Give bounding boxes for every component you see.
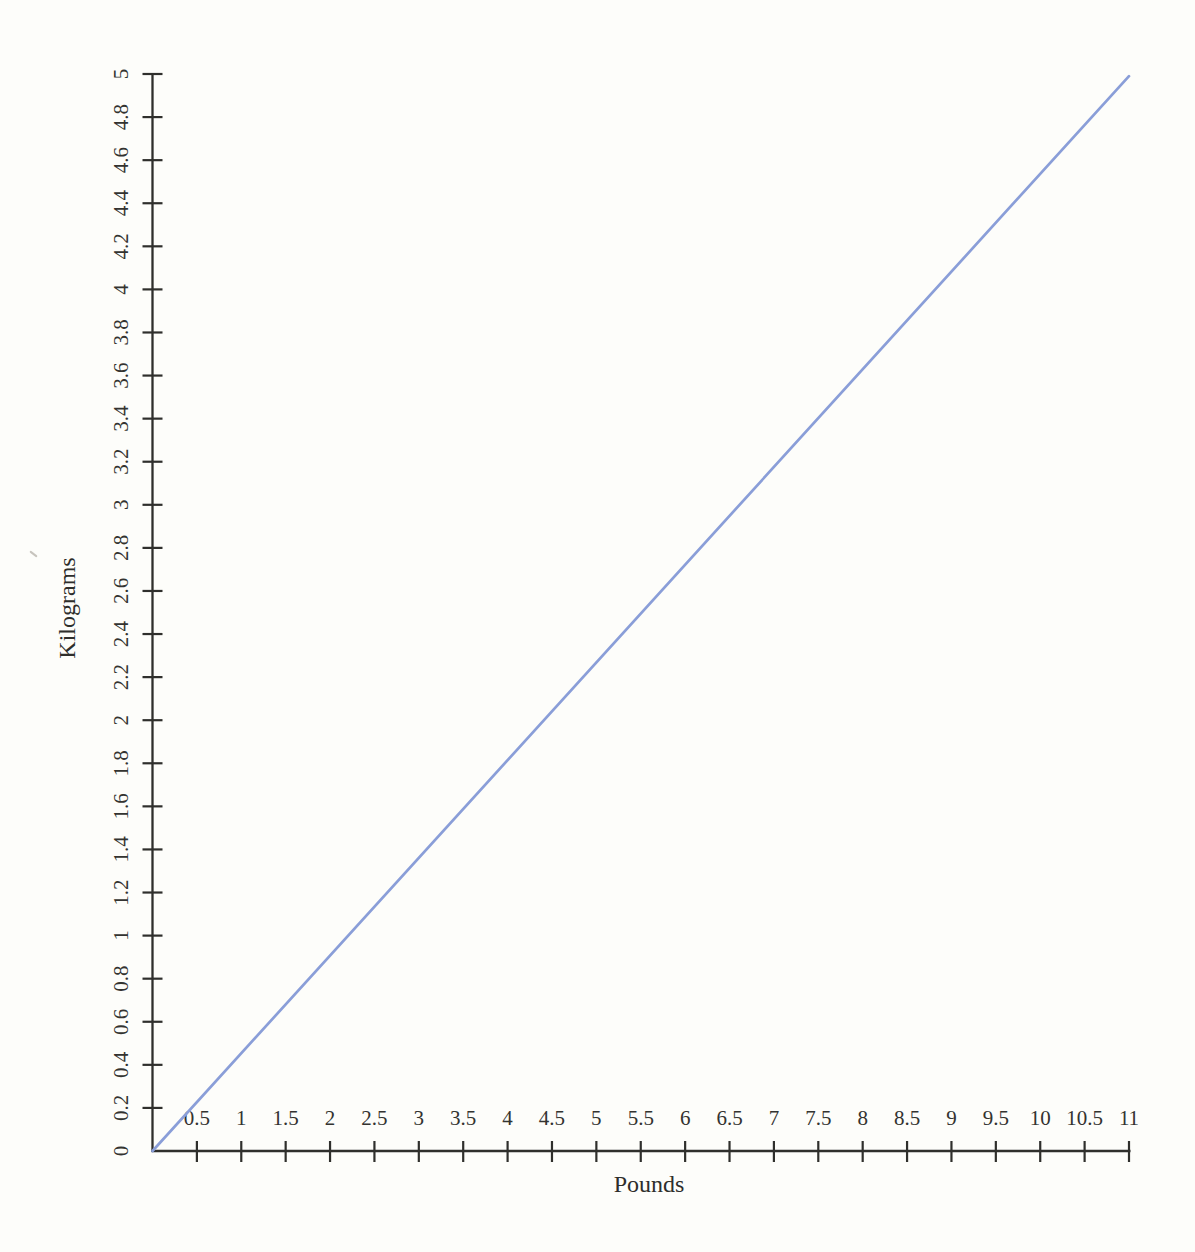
- x-tick-label: 10.5: [1066, 1106, 1103, 1130]
- y-tick-label: 0: [109, 1146, 133, 1157]
- y-tick-label: 2.2: [109, 664, 133, 690]
- x-tick-label: 4: [502, 1106, 513, 1130]
- y-tick-label: 2.6: [109, 578, 133, 604]
- x-tick-label: 2: [325, 1106, 336, 1130]
- x-tick-label: 9: [946, 1106, 957, 1130]
- x-tick-label: 6: [680, 1106, 691, 1130]
- y-tick-label: 3.4: [109, 405, 133, 432]
- y-tick-label: 1.6: [109, 793, 133, 819]
- x-tick-label: 8: [857, 1106, 868, 1130]
- y-tick-label: 0.4: [109, 1051, 133, 1078]
- x-tick-label: 1: [236, 1106, 247, 1130]
- x-tick-label: 2.5: [361, 1106, 387, 1130]
- y-tick-label: 1.8: [109, 750, 133, 776]
- y-tick-label: 0.2: [109, 1095, 133, 1121]
- x-tick-label: 11: [1119, 1106, 1139, 1130]
- y-tick-label: 1.2: [109, 879, 133, 905]
- y-tick-label: 5: [109, 69, 133, 80]
- y-tick-label: 4.8: [109, 104, 133, 130]
- x-tick-label: 9.5: [983, 1106, 1009, 1130]
- x-tick-label: 5: [591, 1106, 602, 1130]
- y-tick-label: 3.8: [109, 319, 133, 345]
- x-tick-label: 8.5: [894, 1106, 920, 1130]
- x-tick-label: 3.5: [450, 1106, 476, 1130]
- x-tick-label: 10: [1030, 1106, 1051, 1130]
- y-tick-label: 0.8: [109, 966, 133, 992]
- y-tick-label: 4.6: [109, 147, 133, 173]
- scanned-chart-page: 00.20.40.60.811.21.41.61.822.22.42.62.83…: [0, 0, 1195, 1252]
- x-tick-label: 6.5: [716, 1106, 742, 1130]
- x-axis-tick-labels: 0.511.522.533.544.555.566.577.588.599.51…: [184, 1106, 1139, 1130]
- y-tick-label: 0.6: [109, 1009, 133, 1035]
- x-axis-title: Pounds: [614, 1171, 685, 1197]
- pounds-to-kilograms-chart: 00.20.40.60.811.21.41.61.822.22.42.62.83…: [0, 0, 1195, 1252]
- y-tick-label: 4: [109, 284, 133, 295]
- y-tick-label: 4.2: [109, 233, 133, 259]
- y-tick-label: 2: [109, 715, 133, 726]
- y-tick-label: 2.4: [109, 620, 133, 647]
- x-tick-label: 5.5: [628, 1106, 654, 1130]
- x-tick-label: 0.5: [184, 1106, 210, 1130]
- series-group: [153, 76, 1130, 1151]
- y-tick-label: 1: [109, 930, 133, 941]
- x-tick-label: 3: [414, 1106, 425, 1130]
- y-axis-tick-labels: 00.20.40.60.811.21.41.61.822.22.42.62.83…: [109, 69, 133, 1157]
- conversion-line: [153, 76, 1130, 1151]
- x-tick-label: 7.5: [805, 1106, 831, 1130]
- y-tick-label: 3.6: [109, 362, 133, 388]
- x-tick-label: 4.5: [539, 1106, 565, 1130]
- x-tick-label: 7: [769, 1106, 780, 1130]
- y-tick-label: 4.4: [109, 190, 133, 217]
- y-tick-label: 3.2: [109, 449, 133, 475]
- y-tick-label: 1.4: [109, 836, 133, 863]
- x-tick-label: 1.5: [273, 1106, 299, 1130]
- y-axis-title: Kilograms: [54, 557, 80, 658]
- y-tick-label: 3: [109, 500, 133, 511]
- y-tick-label: 2.8: [109, 535, 133, 561]
